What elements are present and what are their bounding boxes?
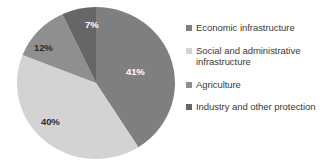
pie-slice-label-social-and-administrative-infrastructure: 40%: [41, 117, 60, 127]
legend-swatch-icon: [186, 25, 192, 31]
pie-plot-area: 41% 40% 12% 7%: [17, 7, 175, 159]
legend-item[interactable]: Economic infrastructure: [186, 22, 330, 34]
pie-chart: 41% 40% 12% 7% Economic infrastructure S…: [0, 0, 330, 164]
legend-item[interactable]: Industry and other protection: [186, 101, 330, 113]
legend-swatch-icon: [186, 82, 192, 88]
legend-item-label: Industry and other protection: [196, 101, 316, 113]
pie-slice-label-economic-infrastructure: 41%: [126, 67, 145, 77]
legend-item[interactable]: Agriculture: [186, 79, 330, 91]
pie-slice-label-industry-and-other-protection: 7%: [85, 20, 99, 30]
legend-item-label: Social and administrative infrastructure: [196, 45, 330, 68]
legend: Economic infrastructure Social and admin…: [186, 22, 330, 113]
pie-slice-label-agriculture: 12%: [34, 43, 53, 53]
legend-item[interactable]: Social and administrative infrastructure: [186, 45, 330, 68]
legend-item-label: Economic infrastructure: [196, 22, 295, 34]
legend-swatch-icon: [186, 104, 192, 110]
legend-swatch-icon: [186, 48, 192, 54]
legend-item-label: Agriculture: [196, 79, 241, 91]
